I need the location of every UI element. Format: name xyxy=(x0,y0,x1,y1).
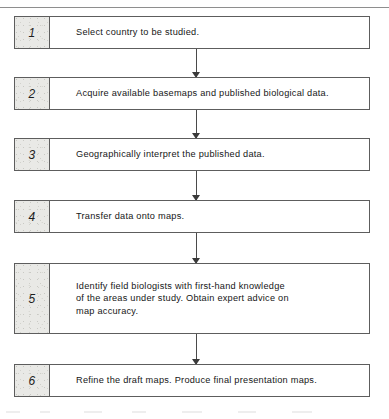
flow-step-5[interactable]: 5 Identify field biologists with first-h… xyxy=(14,263,370,334)
connector-3-4 xyxy=(191,171,202,200)
step-text-2: Acquire available basemaps and published… xyxy=(76,87,329,100)
step-number-cell-6: 6 xyxy=(15,365,50,396)
step-number-cell-3: 3 xyxy=(15,139,50,170)
step-number-cell-1: 1 xyxy=(15,17,50,48)
step-number-cell-4: 4 xyxy=(15,201,50,232)
step-number-2: 2 xyxy=(29,88,36,100)
step-body-5: Identify field biologists with first-han… xyxy=(50,264,369,333)
connector-1-2 xyxy=(191,49,202,77)
step-text-4: Transfer data onto maps. xyxy=(76,210,184,223)
step-number-6: 6 xyxy=(29,375,36,387)
connector-4-5 xyxy=(191,233,202,263)
step-number-3: 3 xyxy=(29,149,36,161)
step-text-1: Select country to be studied. xyxy=(76,26,199,39)
flow-step-2[interactable]: 2 Acquire available basemaps and publish… xyxy=(14,77,370,110)
step-number-1: 1 xyxy=(29,27,36,39)
step-text-3: Geographically interpret the published d… xyxy=(76,148,265,161)
flow-step-3[interactable]: 3 Geographically interpret the published… xyxy=(14,138,370,171)
step-number-5: 5 xyxy=(29,293,36,305)
flow-step-4[interactable]: 4 Transfer data onto maps. xyxy=(14,200,370,233)
connector-2-3 xyxy=(191,110,202,138)
step-text-5: Identify field biologists with first-han… xyxy=(76,280,289,318)
flow-step-6[interactable]: 6 Refine the draft maps. Produce final p… xyxy=(14,364,370,397)
step-text-6: Refine the draft maps. Produce final pre… xyxy=(76,374,317,387)
step-body-6: Refine the draft maps. Produce final pre… xyxy=(50,365,369,396)
step-body-3: Geographically interpret the published d… xyxy=(50,139,369,170)
scan-artifact xyxy=(6,407,326,415)
page-top-rule xyxy=(0,7,389,8)
connector-5-6 xyxy=(191,334,202,364)
flow-step-1[interactable]: 1 Select country to be studied. xyxy=(14,16,370,49)
step-body-2: Acquire available basemaps and published… xyxy=(50,78,369,109)
step-number-4: 4 xyxy=(29,211,36,223)
step-body-4: Transfer data onto maps. xyxy=(50,201,369,232)
step-body-1: Select country to be studied. xyxy=(50,17,369,48)
step-number-cell-2: 2 xyxy=(15,78,50,109)
step-number-cell-5: 5 xyxy=(15,264,50,333)
flowchart-page: 1 Select country to be studied. 2 Acquir… xyxy=(0,0,389,419)
